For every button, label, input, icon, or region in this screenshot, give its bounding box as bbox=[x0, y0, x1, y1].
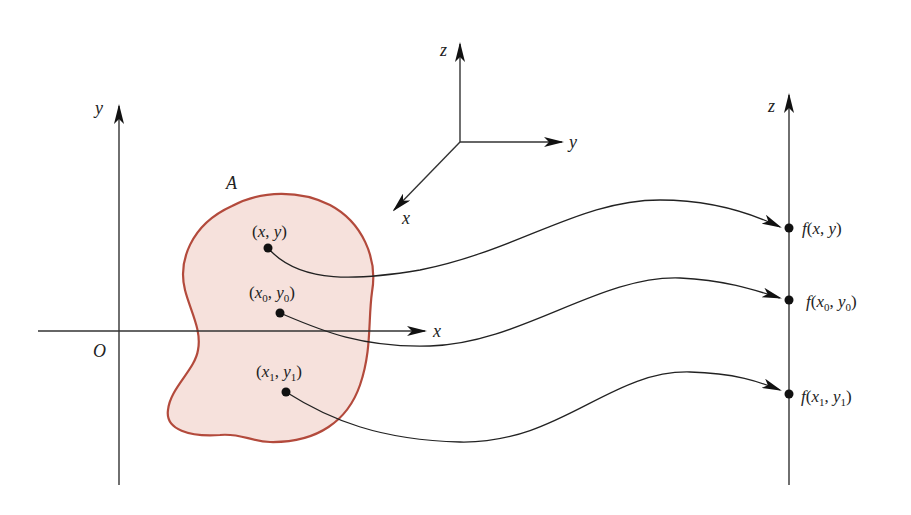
y-axis-label: y bbox=[93, 98, 103, 118]
orient-y-label: y bbox=[567, 132, 577, 152]
label-image-x0y0: f(x0, y0) bbox=[806, 292, 857, 313]
point-x1y1 bbox=[282, 388, 291, 397]
label-image-x1y1: f(x1, y1) bbox=[801, 387, 852, 408]
image-point-xy bbox=[785, 224, 794, 233]
image-point-x0y0 bbox=[785, 296, 794, 305]
origin-label: O bbox=[93, 341, 106, 361]
label-point-xy: (x, y) bbox=[252, 222, 287, 241]
orient-x-axis bbox=[394, 142, 460, 210]
x-axis-label: x bbox=[432, 321, 441, 341]
label-image-xy: f(x, y) bbox=[802, 219, 842, 238]
point-xy bbox=[264, 244, 273, 253]
region-label: A bbox=[225, 173, 238, 193]
output-z-label: z bbox=[767, 96, 775, 116]
image-point-x1y1 bbox=[785, 390, 794, 399]
function-mapping-diagram: y x O A z y x z (x, y) (x0, y0) (x1, y1)… bbox=[0, 0, 911, 515]
point-x0y0 bbox=[276, 309, 285, 318]
orient-x-label: x bbox=[401, 208, 410, 228]
orient-z-label: z bbox=[439, 40, 447, 60]
